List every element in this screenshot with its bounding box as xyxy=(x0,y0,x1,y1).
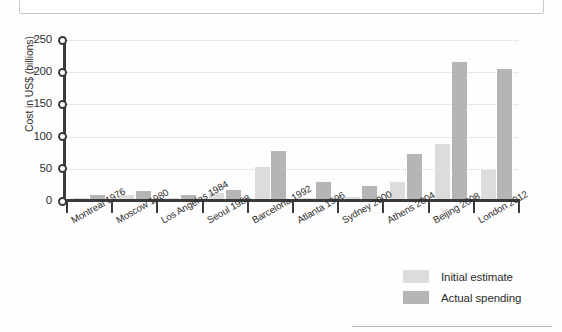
gridline xyxy=(66,72,518,73)
x-tick-marker xyxy=(66,202,68,213)
legend-swatch-initial-estimate xyxy=(403,270,429,283)
y-axis-line xyxy=(63,40,66,201)
bar-actual-spending xyxy=(407,154,422,201)
legend-item-initial-estimate: Initial estimate xyxy=(403,266,521,287)
y-tick-label: 200 xyxy=(12,65,52,77)
legend-swatch-actual-spending xyxy=(403,291,429,304)
chart-legend: Initial estimate Actual spending xyxy=(403,266,521,308)
gridline xyxy=(66,137,518,138)
legend-label-initial-estimate: Initial estimate xyxy=(441,271,513,283)
gridline xyxy=(66,104,518,105)
bar-actual-spending xyxy=(271,151,286,201)
page-bottom-rule xyxy=(352,326,552,327)
y-tick-label: 0 xyxy=(12,194,52,206)
legend-label-actual-spending: Actual spending xyxy=(441,292,521,304)
y-tick-marker xyxy=(58,68,67,77)
bar-initial-estimate xyxy=(481,170,496,201)
y-tick-marker xyxy=(58,100,67,109)
y-tick-label: 150 xyxy=(12,97,52,109)
y-tick-label: 50 xyxy=(12,162,52,174)
y-tick-marker xyxy=(58,36,67,45)
plot-area xyxy=(66,40,518,201)
olympics-cost-bar-chart: Cost in US$ (billions) 050100150200250 M… xyxy=(0,0,562,332)
bar-initial-estimate xyxy=(435,144,450,201)
bar-actual-spending xyxy=(452,62,467,201)
gridline xyxy=(66,40,518,41)
bar-initial-estimate xyxy=(255,167,270,201)
legend-item-actual-spending: Actual spending xyxy=(403,287,521,308)
y-tick-label: 100 xyxy=(12,130,52,142)
bar-actual-spending xyxy=(497,69,512,201)
y-tick-label: 250 xyxy=(12,33,52,45)
